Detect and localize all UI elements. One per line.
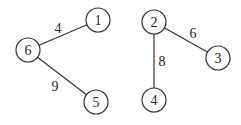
node-5: 5 (84, 90, 108, 114)
svg-text:5: 5 (93, 95, 100, 110)
graph-diagram: 4 9 6 8 1 6 5 2 3 4 (0, 0, 241, 125)
svg-text:1: 1 (95, 13, 102, 28)
edge-weight-6-1: 4 (55, 21, 62, 36)
edge-6-5 (28, 50, 96, 102)
node-6: 6 (16, 38, 40, 62)
node-4: 4 (142, 88, 166, 112)
node-3: 3 (206, 46, 230, 70)
edge-weight-2-4: 8 (159, 54, 166, 69)
svg-text:3: 3 (215, 51, 222, 66)
node-1: 1 (86, 8, 110, 32)
svg-text:6: 6 (25, 43, 32, 58)
svg-text:4: 4 (151, 93, 158, 108)
edge-weight-2-3: 6 (190, 26, 197, 41)
node-2: 2 (142, 10, 166, 34)
svg-text:2: 2 (151, 15, 158, 30)
edge-weight-6-5: 9 (52, 79, 59, 94)
